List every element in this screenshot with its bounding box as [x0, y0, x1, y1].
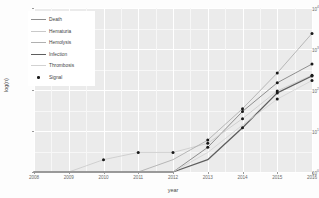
- chart-container: 104103102101100 200820092010201120122013…: [0, 0, 319, 198]
- legend-item: Hematuria: [30, 26, 92, 38]
- x-tick-label: 2011: [121, 176, 155, 181]
- x-tick-mark: [208, 172, 209, 174]
- x-tick-label: 2013: [191, 176, 225, 181]
- x-tick-mark: [104, 172, 105, 174]
- y-tick-mark: [32, 8, 34, 9]
- x-tick-mark: [312, 172, 313, 174]
- x-tick-mark: [277, 172, 278, 174]
- signal-point: [241, 117, 244, 120]
- legend: DeathHematuriaHemolysisInfectionThrombos…: [28, 11, 95, 86]
- signal-point: [311, 79, 314, 82]
- signal-point: [241, 107, 244, 110]
- x-tick-mark: [173, 172, 174, 174]
- signal-point: [206, 139, 209, 142]
- y-tick-mark: [32, 90, 34, 91]
- legend-line-icon: [30, 49, 47, 59]
- series-line: [34, 75, 312, 172]
- signal-point: [276, 71, 279, 74]
- signal-point: [172, 151, 175, 154]
- legend-item: Infection: [30, 49, 92, 61]
- x-tick-label: 2015: [260, 176, 294, 181]
- signal-point: [206, 142, 209, 145]
- y-tick-label: 103: [289, 47, 319, 53]
- y-tick-label: 102: [289, 88, 319, 94]
- series-line: [34, 76, 312, 172]
- x-tick-label: 2016: [295, 176, 319, 181]
- signal-point: [276, 98, 279, 101]
- legend-line-icon: [30, 26, 47, 36]
- legend-item-label: Hematuria: [47, 29, 71, 34]
- x-tick-mark: [69, 172, 70, 174]
- series-line: [34, 81, 312, 172]
- signal-point: [276, 91, 279, 94]
- legend-item-label: Thrombosis: [47, 63, 74, 68]
- legend-item-label: Infection: [47, 52, 67, 57]
- legend-line-icon: [30, 38, 47, 48]
- signal-point: [241, 126, 244, 129]
- legend-dot-icon: [30, 72, 47, 82]
- x-tick-label: 2014: [226, 176, 260, 181]
- legend-item: Hemolysis: [30, 37, 92, 49]
- x-tick-label: 2010: [87, 176, 121, 181]
- x-tick-mark: [34, 172, 35, 174]
- y-tick-label: 104: [289, 6, 319, 12]
- signal-point: [102, 158, 105, 161]
- signal-point: [311, 63, 314, 66]
- x-tick-label: 2012: [156, 176, 190, 181]
- signal-point: [311, 74, 314, 77]
- legend-line-icon: [30, 61, 47, 71]
- legend-item-label: Signal: [47, 75, 62, 80]
- signal-point: [311, 32, 314, 35]
- legend-item: Thrombosis: [30, 60, 92, 72]
- y-axis-title: log(n): [3, 70, 9, 100]
- legend-line-icon: [30, 15, 47, 25]
- x-tick-label: 2008: [17, 176, 51, 181]
- legend-item: Death: [30, 14, 92, 26]
- signal-point: [276, 81, 279, 84]
- legend-item: Signal: [30, 72, 92, 84]
- legend-item-label: Hemolysis: [47, 40, 71, 45]
- y-tick-label: 101: [289, 129, 319, 135]
- x-tick-mark: [243, 172, 244, 174]
- x-axis-title: year: [34, 187, 312, 193]
- signal-point: [137, 151, 140, 154]
- legend-item-label: Death: [47, 17, 62, 22]
- y-tick-mark: [32, 131, 34, 132]
- x-tick-mark: [138, 172, 139, 174]
- x-tick-label: 2009: [52, 176, 86, 181]
- signal-point: [241, 110, 244, 113]
- signal-point: [206, 146, 209, 149]
